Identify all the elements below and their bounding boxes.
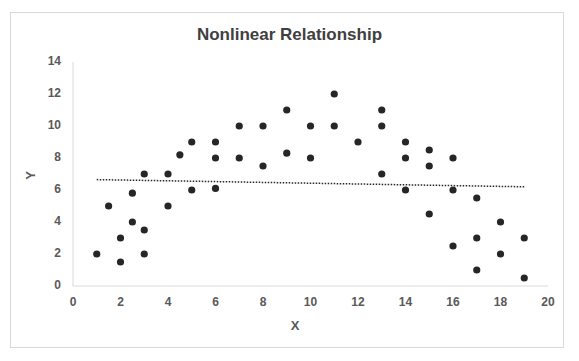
data-point xyxy=(236,154,243,161)
data-point xyxy=(354,138,361,145)
data-point xyxy=(497,250,504,257)
data-point xyxy=(378,106,385,113)
data-point xyxy=(259,162,266,169)
data-point xyxy=(129,218,136,225)
data-point xyxy=(105,202,112,209)
data-point xyxy=(141,250,148,257)
data-point xyxy=(426,162,433,169)
data-point xyxy=(141,226,148,233)
data-point xyxy=(164,202,171,209)
data-point xyxy=(117,234,124,241)
data-point xyxy=(521,274,528,281)
data-point xyxy=(449,154,456,161)
data-point xyxy=(378,170,385,177)
data-point xyxy=(331,122,338,129)
data-point xyxy=(259,122,266,129)
trendline-path xyxy=(97,180,525,187)
data-point xyxy=(426,210,433,217)
data-point xyxy=(497,218,504,225)
data-point xyxy=(473,234,480,241)
data-point xyxy=(473,266,480,273)
data-point xyxy=(117,258,124,265)
data-point xyxy=(449,242,456,249)
data-point xyxy=(402,186,409,193)
data-point xyxy=(212,154,219,161)
data-point xyxy=(473,194,480,201)
data-point xyxy=(236,122,243,129)
data-point xyxy=(521,234,528,241)
data-point xyxy=(141,170,148,177)
plot-area xyxy=(0,0,579,361)
data-point xyxy=(188,186,195,193)
data-point xyxy=(176,151,183,158)
data-points xyxy=(93,90,528,281)
data-point xyxy=(402,154,409,161)
data-point xyxy=(426,146,433,153)
data-point xyxy=(93,250,100,257)
data-point xyxy=(283,106,290,113)
data-point xyxy=(129,190,136,197)
data-point xyxy=(449,186,456,193)
data-point xyxy=(307,154,314,161)
data-point xyxy=(331,90,338,97)
data-point xyxy=(188,138,195,145)
data-point xyxy=(164,170,171,177)
data-point xyxy=(402,138,409,145)
data-point xyxy=(307,122,314,129)
data-point xyxy=(212,185,219,192)
data-point xyxy=(283,150,290,157)
data-point xyxy=(212,138,219,145)
data-point xyxy=(378,122,385,129)
trendline xyxy=(97,180,525,187)
